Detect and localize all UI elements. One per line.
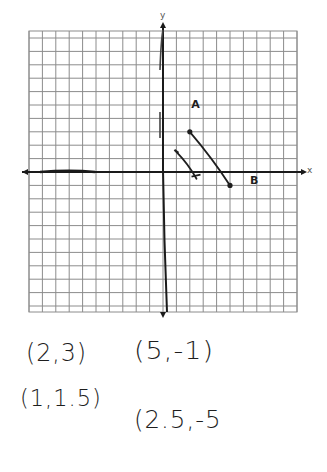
segment-start-mark	[174, 150, 178, 153]
y-axis-bottom-arrow	[160, 312, 166, 318]
x-axis-left-arrow	[22, 169, 28, 175]
coordinate-label-a: (2,3)	[26, 338, 87, 367]
x-axis-overstroke	[40, 171, 95, 172]
coordinate-label-short-start: (1,1.5)	[20, 385, 102, 411]
point-label-b: B	[250, 174, 258, 187]
point-A	[187, 129, 192, 134]
coordinate-label-short-end: (2.5,-5	[134, 405, 222, 434]
point-B	[227, 183, 232, 188]
coordinate-label-b: (5,-1)	[134, 336, 214, 365]
x-axis-label: x	[307, 165, 312, 175]
segment-end-cap	[192, 175, 201, 177]
y-axis-top-arrow	[160, 22, 166, 28]
segment-short-segment	[176, 152, 196, 179]
y-axis-label: y	[160, 10, 165, 20]
point-label-a: A	[191, 98, 200, 111]
coordinate-plane: AB	[0, 0, 327, 330]
y-axis	[163, 24, 167, 312]
